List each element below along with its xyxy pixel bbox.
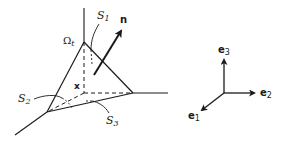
hidden-edges (47, 42, 133, 112)
label-x: x (74, 81, 80, 91)
normal-vector-arrow (94, 31, 121, 75)
label-n: n (120, 14, 127, 25)
diagonal-axis-line (15, 112, 47, 135)
basis-e1-arrow (202, 93, 224, 110)
tetrahedron-edges (47, 42, 133, 112)
label-e3: e3 (218, 44, 230, 57)
leader-S1 (91, 24, 99, 50)
label-S1: S1 (97, 9, 110, 23)
basis-vectors (202, 60, 254, 110)
label-e2: e2 (260, 87, 272, 100)
leader-S3 (92, 101, 109, 113)
leader-S2 (34, 95, 62, 99)
label-Omega-t: Ωt (63, 35, 75, 48)
leader-S1-dash (91, 50, 92, 64)
label-e1: e1 (188, 110, 200, 123)
edge-top-to-bottom-left (47, 42, 84, 112)
edge-bottom-left-to-right (47, 93, 133, 112)
label-S2: S2 (18, 92, 31, 106)
tetrahedron-diagram: S1 n Ωt x S2 S3 e3 e2 e1 (0, 0, 284, 144)
label-S3: S3 (106, 114, 119, 128)
coordinate-axes-lines (15, 8, 168, 135)
